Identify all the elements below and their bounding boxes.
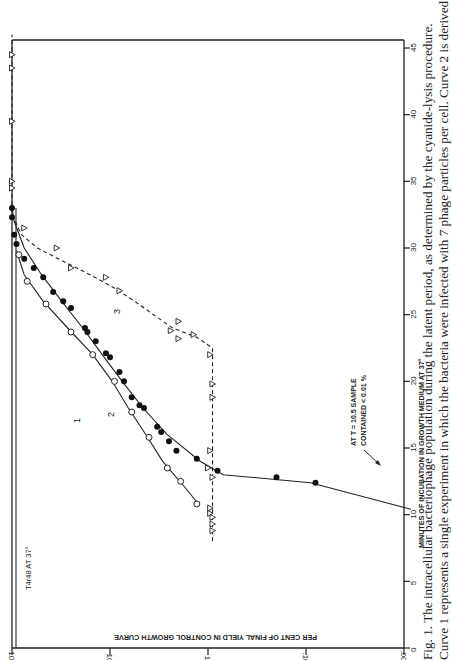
open-circle-point bbox=[90, 352, 96, 358]
curve-2 bbox=[12, 208, 411, 509]
filled-circle-point bbox=[194, 456, 200, 462]
strain-label: T4r48 AT 37° bbox=[24, 546, 33, 590]
fitted-curves bbox=[12, 35, 411, 648]
y-tick-label: 10 bbox=[105, 654, 114, 660]
filled-circle-point bbox=[158, 429, 164, 435]
open-circle-point bbox=[194, 501, 200, 507]
open-circle-point bbox=[24, 278, 30, 284]
open-triangle-point bbox=[22, 225, 28, 231]
y-axis-title: PER CENT OF FINAL YIELD IN CONTROL GROWT… bbox=[114, 633, 317, 642]
plot-frame bbox=[12, 40, 404, 648]
open-circle-point bbox=[16, 252, 22, 258]
filled-circle-point bbox=[116, 369, 122, 375]
open-triangle-point bbox=[103, 274, 109, 280]
filled-circle-point bbox=[9, 205, 15, 211]
filled-circle-point bbox=[137, 402, 143, 408]
open-triangle-point bbox=[176, 318, 182, 324]
y-tick-label: .10 bbox=[301, 652, 310, 660]
filled-circle-point bbox=[154, 424, 160, 430]
open-circle-point bbox=[43, 301, 49, 307]
open-triangle-point bbox=[176, 336, 182, 342]
open-circle-point bbox=[164, 465, 170, 471]
x-tick-label: 25 bbox=[409, 309, 418, 318]
x-axis-title: MINUTES OF INCUBATION IN GROWTH MEDIUM A… bbox=[417, 358, 426, 548]
annotation-line-1: AT T = 10.5 SAMPLE bbox=[350, 378, 357, 446]
filled-circle-point bbox=[31, 265, 37, 271]
filled-circle-point bbox=[103, 350, 109, 356]
filled-circle-point bbox=[21, 256, 27, 262]
curve-label-3: 3 bbox=[112, 309, 122, 314]
x-axis-ticks: 051015202530354045 bbox=[404, 43, 418, 652]
y-axis-ticks: 100101.10.001 bbox=[7, 648, 408, 660]
filled-circle-point bbox=[82, 325, 88, 331]
open-circle-point bbox=[178, 478, 184, 484]
y-tick-label: .001 bbox=[399, 650, 408, 660]
x-tick-label: 0 bbox=[409, 647, 418, 652]
curve-3 bbox=[12, 35, 213, 542]
curve-label-1: 1 bbox=[72, 418, 82, 423]
filled-circle-point bbox=[9, 214, 15, 220]
filled-circle-point bbox=[11, 232, 17, 238]
x-tick-label: 5 bbox=[409, 580, 418, 585]
filled-circle-point bbox=[40, 274, 46, 280]
open-triangle-point bbox=[54, 245, 60, 251]
open-circle-point bbox=[129, 409, 135, 415]
annotation-line-2: CONTAINED < 0.01 % bbox=[360, 374, 367, 446]
open-triangle-point bbox=[168, 328, 174, 334]
x-tick-label: 30 bbox=[409, 243, 418, 252]
curve-label-2: 2 bbox=[106, 412, 116, 417]
open-circle-point bbox=[68, 329, 74, 335]
filled-circle-point bbox=[129, 394, 135, 400]
x-tick-label: 40 bbox=[409, 109, 418, 118]
open-circle-point bbox=[146, 434, 152, 440]
y-tick-label: 1 bbox=[203, 656, 212, 660]
filled-circle-point bbox=[60, 298, 66, 304]
open-triangle-point bbox=[117, 288, 123, 294]
y-tick-label: 100 bbox=[7, 651, 16, 660]
data-points bbox=[9, 52, 318, 534]
filled-circle-point bbox=[68, 305, 74, 311]
filled-circle-point bbox=[166, 438, 172, 444]
chart-labels: MINUTES OF INCUBATION IN GROWTH MEDIUM A… bbox=[24, 309, 426, 642]
filled-circle-point bbox=[214, 468, 220, 474]
filled-circle-point bbox=[13, 241, 19, 247]
curve-1 bbox=[17, 251, 199, 504]
filled-circle-point bbox=[93, 338, 99, 344]
x-tick-label: 45 bbox=[409, 43, 418, 52]
open-circle-point bbox=[111, 378, 117, 384]
filled-circle-point bbox=[273, 474, 279, 480]
filled-circle-point bbox=[50, 289, 56, 295]
filled-circle-point bbox=[121, 378, 127, 384]
filled-circle-point bbox=[312, 480, 318, 486]
x-tick-label: 35 bbox=[409, 176, 418, 185]
filled-circle-point bbox=[173, 448, 179, 454]
